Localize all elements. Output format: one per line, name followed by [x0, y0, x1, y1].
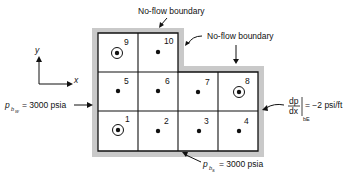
block-label: 9: [124, 37, 129, 47]
block-label: 8: [245, 76, 250, 86]
axis-x-label: x: [73, 75, 79, 85]
east-gradient-arrow-icon: [262, 104, 284, 111]
top-boundary-label: No-flow boundary: [138, 6, 205, 16]
block-label: 2: [164, 116, 169, 126]
svg-text:= −2 psi/ft: = −2 psi/ft: [305, 100, 343, 110]
block-label: 6: [165, 76, 170, 86]
axes-icon: [36, 56, 73, 87]
east-gradient-label: dp dx bE = −2 psi/ft: [288, 96, 343, 122]
svg-text:bE: bE: [303, 116, 310, 122]
svg-text:W: W: [15, 109, 20, 114]
block-label: 5: [124, 76, 129, 86]
block-label: 7: [205, 77, 210, 87]
west-pressure-label: p b W = 3000 psia: [4, 100, 66, 114]
right-boundary-leader-icon: [185, 36, 202, 46]
block-label: 3: [204, 116, 209, 126]
top-boundary-arrow-icon: [159, 18, 167, 28]
block-label: 4: [244, 116, 249, 126]
axis-y-label: y: [34, 45, 40, 55]
svg-text:p: p: [4, 100, 10, 110]
reservoir-grid-diagram: 9 10 5 6 7 8 1 2 3 4: [0, 0, 352, 179]
svg-text:S: S: [212, 168, 215, 173]
svg-text:b: b: [11, 106, 14, 112]
svg-text:dx: dx: [289, 106, 299, 116]
svg-text:= 3000 psia: = 3000 psia: [219, 159, 263, 169]
svg-text:p: p: [202, 159, 208, 169]
right-boundary-down-arrow-icon: [233, 45, 239, 64]
right-boundary-label: No-flow boundary: [207, 31, 274, 41]
svg-text:= 3000 psia: = 3000 psia: [22, 100, 66, 110]
south-pressure-label: p b S = 3000 psia: [202, 159, 263, 173]
west-pressure-arrow-icon: [74, 102, 93, 108]
svg-text:dp: dp: [289, 96, 299, 106]
block-label: 10: [164, 36, 174, 46]
block-label: 1: [125, 114, 130, 124]
